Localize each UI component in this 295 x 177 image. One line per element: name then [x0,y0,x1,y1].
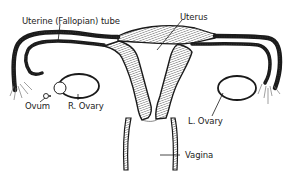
ovum [44,94,49,99]
left-ovary [218,76,256,100]
label-right-ovary: R. Ovary [68,102,104,111]
label-ovum: Ovum [25,102,50,111]
uterus-body [118,26,215,44]
anatomy-drawing [0,0,295,177]
label-vagina: Vagina [185,151,213,160]
follicle [54,82,66,94]
left-uterine-tube [192,36,280,104]
label-uterine-tube: Uterine (Fallopian) tube [22,17,120,26]
vagina [124,118,178,170]
label-uterus: Uterus [180,13,208,22]
label-left-ovary: L. Ovary [188,117,223,126]
uterus-right-wall [156,44,192,119]
ovum-dot [49,95,51,97]
uterus-left-wall [104,41,151,120]
reproductive-system-diagram: Uterine (Fallopian) tube Uterus Ovum R. … [0,0,295,177]
